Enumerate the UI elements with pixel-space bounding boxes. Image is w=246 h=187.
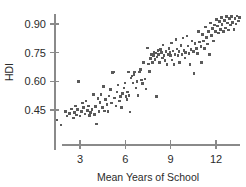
scatter-point xyxy=(126,98,129,101)
scatter-point xyxy=(161,57,164,60)
scatter-point xyxy=(148,70,151,73)
scatter-point xyxy=(132,82,135,85)
scatter-point xyxy=(142,61,145,64)
scatter-point xyxy=(99,101,102,104)
scatter-point xyxy=(94,105,97,108)
scatter-point xyxy=(107,110,110,113)
scatter-point xyxy=(151,61,154,64)
scatter-point xyxy=(169,51,172,54)
scatter-point xyxy=(149,57,152,60)
scatter-point xyxy=(72,117,75,120)
scatter-point xyxy=(224,27,227,30)
scatter-point xyxy=(76,108,79,111)
scatter-point xyxy=(216,25,219,28)
scatter-point xyxy=(141,82,144,85)
y-tick-label: 0.90 xyxy=(25,18,46,30)
scatter-point xyxy=(87,105,90,108)
scatter-point xyxy=(180,44,183,47)
scatter-point xyxy=(118,100,121,103)
scatter-point xyxy=(135,87,138,90)
scatter-point xyxy=(127,71,130,74)
scatter-point xyxy=(177,54,180,57)
scatter-point xyxy=(160,51,163,54)
scatter-point xyxy=(186,35,189,38)
scatter-point xyxy=(221,23,224,26)
scatter-point xyxy=(205,36,208,39)
scatter-point xyxy=(237,20,240,23)
x-tick-label: 12 xyxy=(210,153,222,165)
scatter-point xyxy=(178,50,181,53)
scatter-point xyxy=(92,93,95,96)
scatter-point xyxy=(163,54,166,57)
scatter-point xyxy=(98,110,101,113)
x-tick-label: 3 xyxy=(77,153,83,165)
scatter-point xyxy=(97,97,100,100)
scatter-point xyxy=(145,88,148,91)
scatter-point xyxy=(101,106,104,109)
scatter-point xyxy=(168,47,171,50)
scatter-point xyxy=(162,44,165,47)
scatter-point xyxy=(82,106,85,109)
y-axis-title: HDI xyxy=(3,63,15,81)
scatter-point xyxy=(125,95,128,98)
x-axis-title: Mean Years of School xyxy=(97,171,199,183)
scatter-point xyxy=(194,42,197,45)
scatter-point xyxy=(117,84,120,87)
scatter-point xyxy=(81,102,84,105)
scatter-point xyxy=(182,37,185,40)
scatter-point xyxy=(201,33,204,36)
scatter-point xyxy=(204,26,207,29)
scatter-point xyxy=(230,15,233,18)
y-axis-ticks: 0.450.600.750.90 xyxy=(25,18,59,116)
scatter-point xyxy=(155,95,158,98)
scatter-point xyxy=(226,22,229,25)
scatter-point xyxy=(206,43,209,46)
scatter-point xyxy=(154,52,157,55)
scatter-point xyxy=(80,110,83,113)
scatter-point xyxy=(170,42,173,45)
scatter-point xyxy=(88,114,91,117)
scatter-point xyxy=(189,63,192,66)
scatter-point xyxy=(74,105,77,108)
scatter-point xyxy=(112,71,115,74)
scatter-point xyxy=(166,63,169,66)
scatter-point xyxy=(235,23,238,26)
scatter-point xyxy=(156,56,159,59)
scatter-point xyxy=(157,53,160,56)
scatter-point xyxy=(60,124,63,127)
scatter-point xyxy=(138,71,141,74)
scatter-point xyxy=(214,30,217,33)
scatter-point xyxy=(191,40,194,43)
scatter-point xyxy=(200,61,203,64)
scatter-point xyxy=(133,71,136,74)
scatter-point xyxy=(159,48,162,51)
scatter-point xyxy=(233,28,236,31)
scatter-point xyxy=(121,92,124,95)
scatter-point xyxy=(219,28,222,31)
scatter-point xyxy=(208,53,211,56)
scatter-point xyxy=(137,94,140,97)
scatter-point xyxy=(218,20,221,23)
scatter-point xyxy=(197,30,200,33)
scatter-point xyxy=(136,80,139,83)
scatter-point xyxy=(212,40,215,43)
y-tick-label: 0.75 xyxy=(25,47,46,59)
scatter-point xyxy=(109,88,112,91)
scatter-point xyxy=(190,48,193,51)
scatter-point xyxy=(234,17,237,20)
scatter-point xyxy=(198,41,201,44)
scatter-point xyxy=(227,29,230,32)
scatter-point xyxy=(146,47,149,50)
scatter-point xyxy=(173,63,176,66)
scatter-point xyxy=(73,111,76,114)
scatter-point xyxy=(89,111,92,114)
y-tick-label: 0.60 xyxy=(25,75,46,87)
scatter-point xyxy=(68,112,71,115)
scatter-plot-figure: 0.450.600.750.90 36912 Mean Years of Sch… xyxy=(0,0,246,187)
scatter-point xyxy=(147,63,150,66)
scatter-point xyxy=(126,91,129,94)
scatter-point xyxy=(129,111,132,114)
x-tick-label: 6 xyxy=(122,153,128,165)
x-axis-ticks: 36912 xyxy=(77,140,222,165)
scatter-point xyxy=(209,22,212,25)
